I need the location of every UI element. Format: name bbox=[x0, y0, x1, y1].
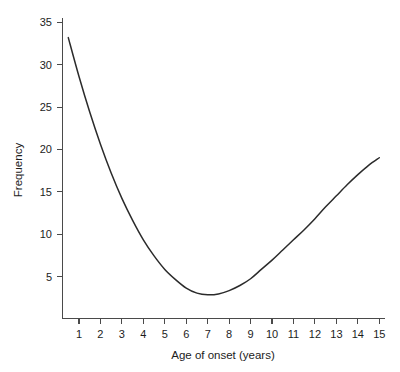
x-tick-label: 7 bbox=[205, 328, 211, 340]
x-tick-label: 11 bbox=[288, 328, 299, 340]
y-tick-label: 15 bbox=[40, 186, 52, 198]
chart-figure: 35 30 25 20 15 10 5 1 2 3 4 5 bbox=[0, 0, 400, 372]
y-tick-label: 30 bbox=[40, 59, 52, 71]
y-tick-label: 25 bbox=[40, 101, 52, 113]
y-tick-label: 35 bbox=[40, 16, 52, 28]
x-tick-label: 10 bbox=[266, 328, 278, 340]
x-tick-label: 12 bbox=[309, 328, 321, 340]
frequency-curve bbox=[68, 38, 379, 295]
x-axis-title: Age of onset (years) bbox=[171, 349, 275, 361]
x-tick-label: 14 bbox=[352, 328, 364, 340]
y-axis-title: Frequency bbox=[12, 143, 24, 198]
y-tick-label: 5 bbox=[46, 271, 52, 283]
x-tick-label: 2 bbox=[97, 328, 103, 340]
x-tick-label: 15 bbox=[373, 328, 385, 340]
y-axis-ticks: 35 30 25 20 15 10 5 bbox=[40, 16, 63, 282]
frequency-vs-age-line-chart: 35 30 25 20 15 10 5 1 2 3 4 5 bbox=[0, 0, 400, 372]
x-tick-label: 3 bbox=[119, 328, 125, 340]
x-tick-label: 4 bbox=[140, 328, 146, 340]
x-tick-label: 9 bbox=[248, 328, 254, 340]
x-tick-label: 13 bbox=[330, 328, 342, 340]
x-axis-ticks: 1 2 3 4 5 6 7 8 9 10 11 12 13 bbox=[76, 319, 385, 341]
x-tick-label: 6 bbox=[183, 328, 189, 340]
y-tick-label: 10 bbox=[40, 228, 52, 240]
x-tick-label: 8 bbox=[226, 328, 232, 340]
x-tick-label: 5 bbox=[162, 328, 168, 340]
y-tick-label: 20 bbox=[40, 143, 52, 155]
x-tick-label: 1 bbox=[76, 328, 82, 340]
